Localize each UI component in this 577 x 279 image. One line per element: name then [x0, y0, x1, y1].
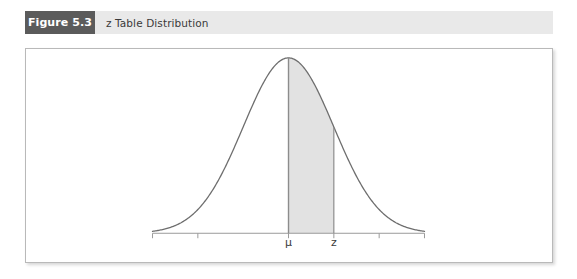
z-axis-label: z	[331, 236, 337, 249]
shaded-area-mu-to-z	[289, 58, 334, 233]
mu-axis-label: μ	[285, 236, 292, 249]
figure-header: Figure 5.3 z Table Distribution	[25, 11, 553, 34]
figure-number-badge: Figure 5.3	[25, 11, 95, 34]
chart-panel: μ z	[25, 48, 553, 263]
normal-distribution-chart: μ z	[26, 49, 552, 262]
figure-caption: z Table Distribution	[95, 11, 553, 34]
